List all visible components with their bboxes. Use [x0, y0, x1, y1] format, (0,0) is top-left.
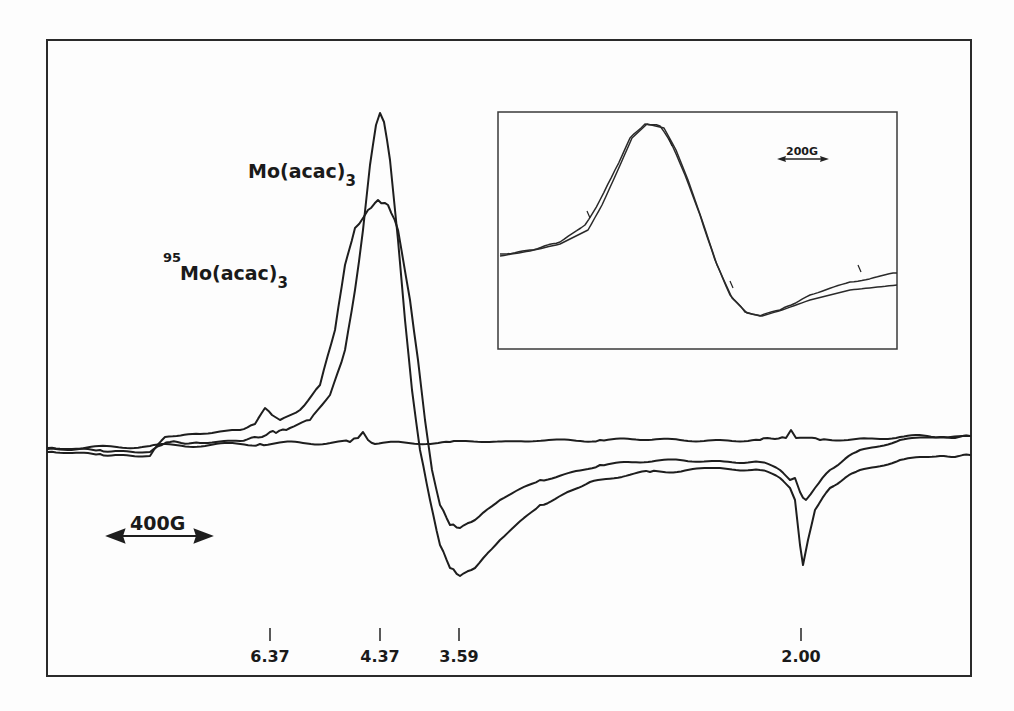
scale-bar-label: 400G — [130, 512, 185, 534]
scale-bar-400g: 400G — [108, 512, 211, 542]
tick-label-4.37: 4.37 — [360, 647, 399, 666]
epr-spectrum-figure: Mo(acac)3 95 Mo(acac)3 400G 6.37 4.37 3.… — [0, 0, 1014, 711]
arrow-left-icon — [108, 530, 124, 542]
label-mo-acac3: Mo(acac)3 — [248, 160, 356, 190]
trace-baseline — [48, 430, 970, 450]
tick-label-2.00: 2.00 — [781, 647, 820, 666]
arrow-right-icon — [195, 530, 211, 542]
inset-scale-label: 200G — [786, 145, 818, 158]
x-axis-ticks: 6.37 4.37 3.59 2.00 — [250, 628, 820, 666]
inset-plot: 200G — [498, 112, 897, 349]
tick-label-3.59: 3.59 — [439, 647, 478, 666]
tick-label-6.37: 6.37 — [250, 647, 289, 666]
label-95mo-acac3: Mo(acac)3 — [180, 262, 288, 292]
label-95-superscript: 95 — [163, 250, 181, 265]
inset-frame — [498, 112, 897, 349]
chart-canvas: Mo(acac)3 95 Mo(acac)3 400G 6.37 4.37 3.… — [0, 0, 1014, 711]
